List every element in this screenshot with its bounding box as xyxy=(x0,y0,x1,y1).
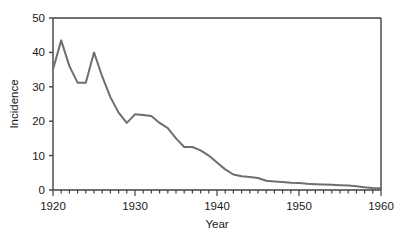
incidence-series-line xyxy=(53,40,381,188)
data-series-group xyxy=(53,40,381,188)
y-tick-label: 30 xyxy=(32,81,45,93)
chart-figure: 01020304050 19201930194019501960 Year In… xyxy=(0,0,408,238)
x-axis-ticks xyxy=(53,190,381,196)
plot-frame xyxy=(53,18,381,190)
y-tick-label: 0 xyxy=(39,184,45,196)
y-tick-label: 40 xyxy=(32,46,45,58)
y-tick-label: 10 xyxy=(32,150,45,162)
x-tick-label: 1930 xyxy=(122,200,148,212)
incidence-line-chart: 01020304050 19201930194019501960 Year In… xyxy=(0,0,408,238)
y-axis-tick-labels: 01020304050 xyxy=(32,12,45,196)
x-axis-tick-labels: 19201930194019501960 xyxy=(40,200,394,212)
x-axis-title: Year xyxy=(205,218,228,230)
x-tick-label: 1920 xyxy=(40,200,66,212)
y-tick-label: 50 xyxy=(32,12,45,24)
y-tick-label: 20 xyxy=(32,115,45,127)
x-tick-label: 1960 xyxy=(368,200,394,212)
x-tick-label: 1940 xyxy=(204,200,230,212)
y-axis-title: Incidence xyxy=(8,79,20,128)
x-tick-label: 1950 xyxy=(286,200,312,212)
